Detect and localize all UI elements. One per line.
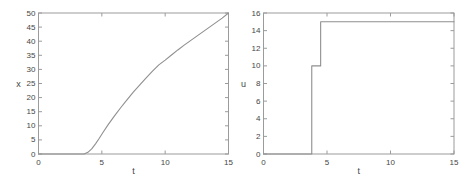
x-axis-label: t: [357, 166, 360, 176]
y-tick-label: 15: [27, 107, 36, 116]
y-axis-label: x: [16, 79, 21, 89]
y-tick-label: 0: [256, 150, 261, 159]
x-tick-label: 10: [161, 158, 170, 167]
y-tick-label: 8: [256, 79, 261, 88]
y-tick-label: 2: [256, 132, 261, 141]
y-tick-label: 5: [31, 135, 36, 144]
x-tick-label: 15: [450, 158, 459, 167]
y-tick-label: 14: [252, 26, 261, 35]
series-line: [264, 22, 455, 154]
y-tick-label: 35: [27, 51, 36, 60]
y-tick-label: 0: [31, 150, 36, 159]
y-tick-label: 40: [27, 37, 36, 46]
y-tick-label: 10: [27, 121, 36, 130]
y-tick-label: 10: [252, 61, 261, 70]
y-tick-label: 16: [252, 9, 261, 18]
figure-two-plots: 05101505101520253035404550tx051015024681…: [0, 0, 472, 185]
x-tick-label: 15: [224, 158, 233, 167]
x-axis-label: t: [132, 166, 135, 176]
y-tick-label: 4: [256, 114, 261, 123]
x-tick-label: 0: [261, 158, 266, 167]
axis-box: [264, 13, 455, 154]
y-axis-label: u: [241, 79, 246, 89]
y-tick-label: 45: [27, 23, 36, 32]
x-tick-label: 10: [386, 158, 395, 167]
y-tick-label: 30: [27, 65, 36, 74]
y-tick-label: 12: [252, 44, 261, 53]
series-line: [39, 13, 229, 154]
y-tick-label: 20: [27, 93, 36, 102]
y-tick-label: 6: [256, 97, 261, 106]
y-tick-label: 25: [27, 79, 36, 88]
x-tick-label: 5: [100, 158, 105, 167]
x-tick-label: 5: [325, 158, 330, 167]
x-tick-label: 0: [36, 158, 41, 167]
y-tick-label: 50: [27, 9, 36, 18]
plots-canvas: 05101505101520253035404550tx051015024681…: [0, 0, 472, 185]
